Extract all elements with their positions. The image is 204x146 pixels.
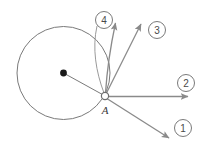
vector-3-label: 3	[154, 25, 160, 36]
vector-4-guide-arc	[95, 26, 104, 93]
vector-1-label: 1	[180, 123, 186, 134]
vector-3-arrow	[106, 24, 141, 94]
vector-1-arrow	[106, 98, 169, 138]
circle-center-dot	[60, 70, 67, 77]
radius-segment	[64, 73, 104, 95]
diagram-canvas: A 1 2 3 4	[0, 0, 204, 146]
point-a-label: A	[101, 104, 109, 116]
vector-2-label: 2	[183, 78, 189, 89]
circle-vectors-diagram: A 1 2 3 4	[0, 0, 204, 146]
vector-4-label: 4	[101, 15, 107, 26]
point-a-marker	[101, 92, 108, 99]
